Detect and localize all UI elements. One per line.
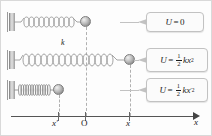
axis-label-origin-text: O	[81, 118, 88, 128]
axis-name-label: x	[194, 117, 198, 127]
formula-U-symbol-row3: U	[160, 86, 167, 95]
axis-tick-x-prime	[58, 112, 59, 121]
axis-label-x-prime: x′	[52, 118, 58, 128]
callout-relaxed: U=0	[146, 12, 204, 32]
wall-support-row3	[9, 81, 15, 99]
formula-value-row1: 0	[180, 18, 185, 27]
formula-relaxed: U=0	[165, 18, 184, 27]
formula-denominator-row3: 2	[176, 90, 181, 98]
formula-term-row3: kx	[182, 86, 190, 95]
formula-fraction-row2: 12	[176, 53, 181, 67]
formula-equals-row1: =	[173, 18, 178, 27]
callout-stretched: U=12kx2	[146, 48, 208, 72]
ball-relaxed	[80, 16, 91, 27]
callout-compressed: U=12kx′2	[146, 78, 208, 102]
formula-term-row2: kx	[183, 56, 191, 65]
spring-potential-energy-figure: U=0 k U=12kx2	[0, 0, 212, 136]
x-axis-line	[11, 116, 197, 117]
formula-equals-row3: =	[168, 86, 173, 95]
formula-stretched: U=12kx2	[160, 53, 194, 67]
formula-fraction-row3: 12	[176, 83, 181, 97]
dashed-line-origin-upper	[86, 27, 87, 116]
spring-constant-label: k	[61, 38, 65, 47]
wall-support-row1	[9, 13, 15, 31]
formula-U-symbol-row2: U	[160, 56, 167, 65]
callout-leader-row3	[120, 90, 139, 91]
axis-label-x-prime-mark: ′	[56, 119, 58, 128]
axis-label-x-text: x	[126, 118, 130, 128]
formula-equals-row2: =	[168, 56, 173, 65]
axis-label-x: x	[126, 118, 130, 128]
callout-leader-row1	[120, 22, 139, 23]
wall-support-row2	[9, 51, 15, 69]
formula-compressed: U=12kx′2	[160, 83, 195, 97]
formula-denominator-row2: 2	[176, 60, 181, 68]
formula-U-symbol-row1: U	[165, 18, 172, 27]
axis-label-origin: O	[81, 118, 88, 128]
ball-compressed	[53, 84, 64, 95]
